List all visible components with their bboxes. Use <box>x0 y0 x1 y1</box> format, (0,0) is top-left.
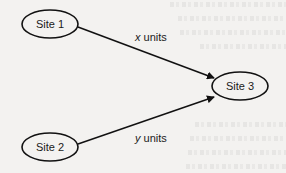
edge-site2-to-site3: y units <box>78 97 214 144</box>
node-site-3: Site 3 <box>212 72 268 100</box>
node-label: Site 1 <box>36 18 64 30</box>
edge-site1-to-site3: x units <box>78 27 214 78</box>
node-label: Site 2 <box>36 141 64 153</box>
node-site-1: Site 1 <box>22 10 78 38</box>
node-site-2: Site 2 <box>22 133 78 161</box>
edge-label-y-units: y units <box>134 132 167 144</box>
flow-diagram: x units y units Site 1 Site 2 Site 3 <box>0 0 286 173</box>
diagram-canvas: x units y units Site 1 Site 2 Site 3 <box>0 0 286 173</box>
edge-label-x-units: x units <box>134 31 167 43</box>
node-label: Site 3 <box>226 80 254 92</box>
